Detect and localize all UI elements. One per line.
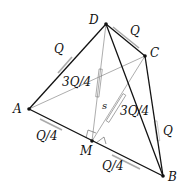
- label-force-CM: 3Q/4: [120, 105, 149, 117]
- label-D: D: [89, 14, 99, 26]
- force-shade-AD: [58, 57, 72, 73]
- point-M: [90, 139, 94, 143]
- label-force-DM: 3Q/4: [62, 76, 91, 88]
- point-B: [161, 174, 165, 178]
- label-force-DC: Q: [130, 25, 140, 37]
- label-force-AM: Q/4: [36, 130, 58, 142]
- label-force-MB: Q/4: [102, 160, 124, 172]
- label-B: B: [168, 171, 177, 183]
- point-D: [104, 22, 108, 26]
- point-A: [27, 107, 31, 111]
- edge-D-M: [92, 24, 106, 141]
- point-C: [143, 54, 147, 58]
- label-force-AD: Q: [54, 43, 64, 55]
- edge-A-D: [29, 24, 106, 109]
- tetrahedron-diagram: [0, 0, 185, 190]
- label-M: M: [80, 145, 92, 157]
- label-force-CB: Q: [163, 125, 173, 137]
- label-A: A: [13, 103, 22, 115]
- label-s: s: [102, 101, 107, 111]
- label-C: C: [150, 47, 159, 59]
